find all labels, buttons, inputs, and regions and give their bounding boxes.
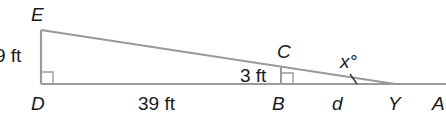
measurement-CB: 3 ft: [240, 66, 266, 85]
measurement-ED: 9 ft: [0, 46, 21, 65]
measurement-DB: 39 ft: [138, 94, 175, 113]
point-label-Y: Y: [388, 94, 401, 113]
angle-label-x: x°: [340, 52, 357, 71]
similar-triangles-diagram: [0, 0, 446, 117]
point-label-B: B: [272, 94, 285, 113]
point-label-A: A: [432, 94, 445, 113]
point-label-D: D: [31, 94, 45, 113]
measurement-BY: d: [332, 94, 343, 113]
point-label-E: E: [31, 5, 44, 24]
right-angle-marker-B: [281, 73, 293, 84]
point-label-C: C: [277, 42, 291, 61]
right-angle-marker-D: [41, 72, 53, 84]
